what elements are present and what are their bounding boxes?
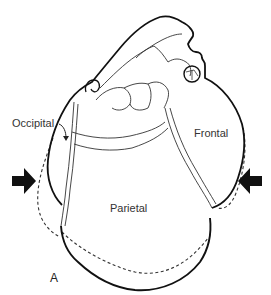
coronal-suture-inner — [170, 108, 216, 204]
skull-diagram: Occipital Frontal Parietal A — [0, 0, 271, 295]
sphenoid-region-lines — [96, 82, 169, 110]
round-boss-detail — [186, 70, 198, 80]
parietal-label: Parietal — [110, 203, 147, 214]
skull-drawing — [0, 0, 271, 295]
occipital-pointer — [59, 124, 66, 138]
arrow-left-icon — [238, 168, 262, 194]
arrow-right-icon — [12, 168, 36, 194]
occipital-label: Occipital — [12, 118, 54, 129]
upper-ridge-inner-2 — [136, 46, 191, 76]
occipital-pointer-head — [63, 136, 69, 141]
left-lambdoid-suture-inner — [65, 104, 78, 226]
panel-letter: A — [50, 272, 58, 284]
parietal-bold-outline — [61, 218, 211, 290]
frontal-label: Frontal — [194, 128, 228, 139]
coronal-suture-outer — [165, 108, 212, 208]
occipital-parietal-suture-inner — [74, 128, 168, 150]
occipital-parietal-suture — [72, 122, 165, 138]
